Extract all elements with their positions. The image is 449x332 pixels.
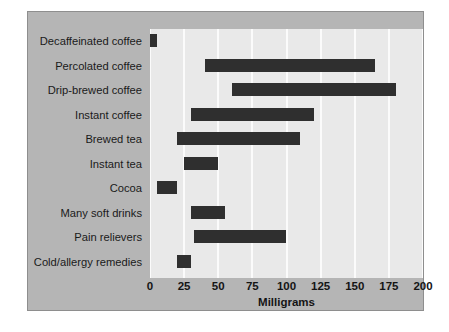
bar-row [150,152,423,177]
bar-row [150,225,423,250]
category-label: Instant coffee [28,103,146,128]
chart-panel: Decaffeinated coffeePercolated coffeeDri… [27,11,424,311]
bar-row [150,176,423,201]
bar [191,206,225,219]
bar [232,83,396,96]
bar [150,34,157,47]
x-tick-label-25: 25 [178,280,191,292]
x-axis-label: Milligrams [150,296,423,308]
x-tick-label-125: 125 [311,280,330,292]
bar [194,230,287,243]
bar-row [150,54,423,79]
bar-row [150,201,423,226]
category-label: Drip-brewed coffee [28,78,146,103]
bar [157,181,177,194]
bar-row [150,103,423,128]
x-tick-label-0: 0 [147,280,153,292]
category-label: Instant tea [28,152,146,177]
x-axis-ticks: 0255075100125150175200 [150,280,423,297]
x-tick-label-175: 175 [379,280,398,292]
bar [191,108,314,121]
bar-rows [150,29,423,278]
x-tick-label-200: 200 [413,280,432,292]
bar-row [150,29,423,54]
bar-row [150,127,423,152]
category-label: Percolated coffee [28,54,146,79]
bar [205,59,376,72]
x-tick-label-150: 150 [345,280,364,292]
plot-area [150,29,423,278]
category-labels: Decaffeinated coffeePercolated coffeeDri… [28,29,146,278]
bar-row [150,78,423,103]
category-label: Pain relievers [28,225,146,250]
category-label: Brewed tea [28,127,146,152]
bar [184,157,218,170]
category-label: Decaffeinated coffee [28,29,146,54]
category-label: Cocoa [28,176,146,201]
x-tick-label-50: 50 [212,280,225,292]
category-label: Cold/allergy remedies [28,250,146,275]
x-tick-label-100: 100 [277,280,296,292]
bar [177,132,300,145]
category-label: Many soft drinks [28,201,146,226]
bar [177,255,191,268]
x-tick-label-75: 75 [246,280,259,292]
bar-row [150,250,423,275]
